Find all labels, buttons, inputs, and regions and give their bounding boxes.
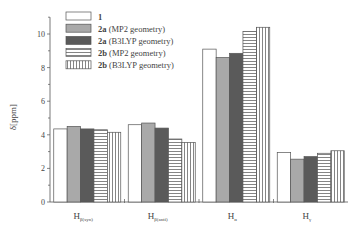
x-tick-sublabel: α (234, 217, 237, 222)
legend-swatch (66, 49, 91, 57)
legend-label-rest: (MP2 geometry) (107, 48, 166, 58)
legend-label-rest: (B3LYP geometry) (107, 60, 174, 70)
bar (182, 142, 195, 202)
bar (331, 151, 344, 202)
legend-swatch (66, 36, 91, 44)
bar (168, 139, 181, 202)
x-tick-sublabel: β(anti) (154, 217, 168, 222)
legend-label: 2b (B3LYP geometry) (98, 60, 174, 70)
y-tick-label: 0 (41, 198, 45, 207)
bar (67, 126, 80, 202)
legend-label: 2b (MP2 geometry) (98, 48, 166, 58)
bar (107, 132, 120, 202)
bar (142, 123, 155, 202)
bar (94, 130, 107, 202)
bar (81, 129, 94, 202)
legend-swatch (66, 61, 91, 69)
legend-label-rest: (B3LYP geometry) (107, 36, 174, 46)
x-tick-label: Hα (228, 211, 238, 222)
legend-label: 2a (B3LYP geometry) (98, 36, 173, 46)
legend-label-bold: 2b (98, 60, 107, 70)
bar (256, 27, 269, 202)
bar (230, 53, 243, 202)
x-tick-sublabel: β(syn) (80, 217, 93, 222)
y-tick-label: 2 (41, 164, 45, 173)
chart-canvas: 0246810Hβ(syn)Hβ(anti)HαHγ 12a (MP2 geom… (0, 0, 364, 233)
x-tick-sublabel: γ (309, 217, 312, 222)
x-tick-label: Hβ(syn) (74, 211, 94, 222)
bar (155, 128, 168, 202)
bar (216, 58, 229, 202)
legend-label-bold: 2b (98, 48, 107, 58)
y-tick-label: 8 (41, 64, 45, 73)
x-tick-label: Hβ(anti) (148, 211, 168, 222)
bar (54, 129, 67, 202)
bar (304, 157, 317, 202)
bar (291, 159, 304, 202)
x-tick-label: Hγ (302, 211, 312, 222)
bar (317, 153, 330, 202)
bar (243, 31, 256, 202)
legend-label-bold: 1 (98, 12, 102, 22)
y-tick-label: 6 (41, 97, 45, 106)
legend-label: 2a (MP2 geometry) (98, 24, 165, 34)
y-tick-label: 10 (37, 30, 45, 39)
legend-label-rest: (MP2 geometry) (107, 24, 166, 34)
legend: 12a (MP2 geometry)2a (B3LYP geometry)2b … (66, 12, 174, 71)
y-axis-label: δ[ppm] (8, 104, 18, 130)
legend-label: 1 (98, 12, 102, 22)
legend-swatch (66, 12, 91, 20)
legend-swatch (66, 24, 91, 32)
y-tick-label: 4 (41, 131, 45, 140)
bar (128, 125, 141, 202)
bar-chart: 0246810Hβ(syn)Hβ(anti)HαHγ 12a (MP2 geom… (0, 0, 364, 233)
bar (277, 152, 290, 202)
bar (203, 49, 216, 202)
